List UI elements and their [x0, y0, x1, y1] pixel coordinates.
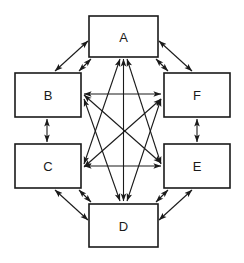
node-d[interactable]: D: [89, 204, 158, 247]
node-b-box[interactable]: [15, 73, 81, 117]
edge-d-b: [84, 99, 120, 201]
node-f-box[interactable]: [164, 73, 230, 117]
node-e[interactable]: E: [164, 144, 230, 188]
node-e-box[interactable]: [164, 144, 230, 188]
node-d-box[interactable]: [89, 204, 158, 247]
node-a[interactable]: A: [89, 16, 158, 57]
node-c-box[interactable]: [15, 144, 81, 188]
node-b[interactable]: B: [15, 73, 81, 117]
node-link-graph: A B C D E F: [0, 0, 244, 263]
node-a-box[interactable]: [89, 16, 158, 57]
node-f[interactable]: F: [164, 73, 230, 117]
edge-b-a: [79, 59, 91, 71]
edge-c-d: [79, 190, 91, 202]
edge-group-interior: [84, 59, 161, 201]
edge-d-e: [156, 190, 168, 202]
diagram-canvas: A B C D E F: [0, 0, 244, 263]
edge-a-f: [156, 59, 168, 71]
node-c[interactable]: C: [15, 144, 81, 188]
